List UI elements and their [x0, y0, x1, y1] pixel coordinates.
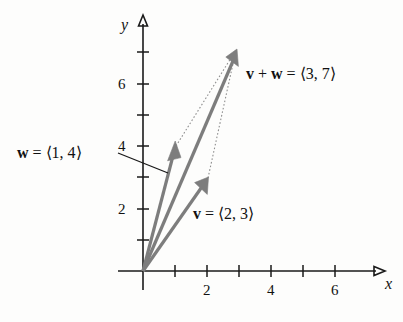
label-w-w: w	[17, 144, 29, 161]
label-w: w = ⟨1, 4⟩	[17, 145, 82, 161]
label-v-components: ⟨2, 3⟩	[218, 205, 254, 222]
x-tick-label-2: 2	[203, 283, 211, 298]
x-tick-label-4: 4	[267, 283, 275, 298]
vector-figure: 6 4 2 2 4 6 y x v + w = ⟨3, 7⟩ w = ⟨1, 4…	[0, 0, 403, 322]
y-tick-label-6: 6	[118, 77, 126, 92]
label-v-v: v	[193, 205, 201, 222]
vector-w	[143, 141, 181, 271]
x-axis	[118, 267, 385, 276]
label-v: v = ⟨2, 3⟩	[193, 206, 254, 222]
label-w-equals: =	[33, 144, 42, 161]
label-v-plus-w-w: w	[271, 65, 283, 82]
y-tick-label-2: 2	[118, 202, 126, 217]
y-tick-label-4: 4	[118, 139, 126, 154]
x-tick-label-6: 6	[331, 283, 339, 298]
x-axis-label: x	[385, 276, 392, 292]
label-v-plus-w-plus: +	[258, 65, 267, 82]
label-v-plus-w: v + w = ⟨3, 7⟩	[246, 66, 336, 82]
label-v-plus-w-v: v	[246, 65, 254, 82]
y-axis-label: y	[121, 17, 128, 33]
y-axis	[139, 15, 148, 290]
figure-canvas	[0, 0, 403, 322]
label-v-plus-w-equals: =	[287, 65, 296, 82]
label-v-equals: =	[205, 205, 214, 222]
vector-v-plus-w	[143, 49, 238, 271]
label-w-components: ⟨1, 4⟩	[46, 144, 82, 161]
dotted-parallelogram-edges	[176, 50, 236, 178]
label-v-plus-w-components: ⟨3, 7⟩	[300, 65, 336, 82]
